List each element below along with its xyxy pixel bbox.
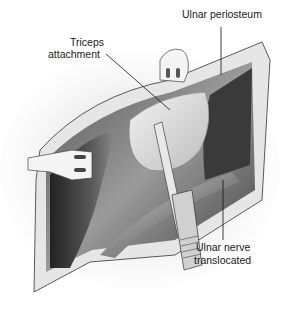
surgical-illustration — [0, 0, 285, 315]
label-ulnar-periosteum: Ulnar periosteum — [182, 8, 262, 21]
retractor-tine — [74, 155, 86, 159]
retractor-tine — [176, 68, 180, 78]
label-nerve-line1: Ulnar nerve — [196, 241, 250, 254]
retractor-tine — [74, 168, 86, 172]
retractor-top — [160, 49, 188, 82]
label-triceps-line2: attachment — [48, 48, 100, 61]
label-nerve-line2: translocated — [194, 254, 251, 267]
retractor-tine — [166, 68, 170, 78]
